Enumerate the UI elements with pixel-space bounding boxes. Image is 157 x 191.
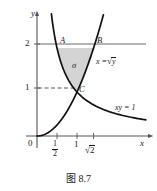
- x-tick-label-sqrt2: √2: [85, 140, 95, 156]
- point-label-a: A: [60, 36, 65, 45]
- x-tick-label-1: 1: [74, 140, 79, 149]
- origin-label: 0: [28, 139, 33, 148]
- region-sigma-fill: [57, 48, 94, 92]
- figure-container: y x 0 2 1 1 2 1 √2 A B C σ x =√y xy = 1 …: [0, 0, 157, 191]
- fraction-numerator: 1: [52, 140, 58, 148]
- fraction-denominator: 2: [52, 149, 58, 158]
- curve-label-hyperbola: xy = 1: [115, 104, 136, 112]
- coordinate-plot: [0, 0, 157, 191]
- point-label-c: C: [79, 85, 85, 94]
- curve-label-parabola: x =√y: [96, 57, 116, 66]
- point-label-b: B: [97, 36, 102, 45]
- region-label-sigma: σ: [72, 61, 76, 70]
- x-tick-label-half: 1 2: [52, 140, 58, 158]
- y-tick-label-2: 2: [25, 39, 30, 48]
- y-axis-label: y: [31, 9, 35, 18]
- curve-label-parabola-lhs: x =: [96, 57, 107, 66]
- figure-caption: 图 8.7: [0, 170, 157, 185]
- radical-argument: 2: [89, 145, 96, 155]
- x-axis-label: x: [140, 139, 144, 148]
- radical-argument: y: [111, 57, 117, 66]
- y-tick-label-1: 1: [25, 83, 30, 92]
